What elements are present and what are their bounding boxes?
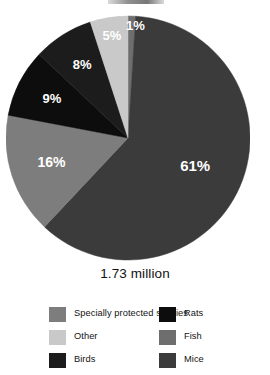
legend-item-label: Rats <box>184 309 203 318</box>
legend-swatch <box>49 307 66 322</box>
legend-item[interactable]: Mice <box>159 349 259 371</box>
pie-slice-label: 16% <box>37 154 66 170</box>
legend-item[interactable]: Specially protected species <box>49 303 159 325</box>
legend-column-left: Specially protected speciesOtherBirds <box>49 303 159 372</box>
chart-legend: Specially protected speciesOtherBirds Ra… <box>0 303 270 373</box>
legend-swatch <box>159 353 176 368</box>
legend-item-label: Mice <box>184 355 204 364</box>
pie-chart-svg: 1%61%16%9%8%5% <box>6 14 250 262</box>
legend-item[interactable]: Rats <box>159 303 259 325</box>
legend-column-right: RatsFishMice <box>159 303 259 372</box>
pie-slice-label: 61% <box>180 157 210 174</box>
clipped-top-artifact <box>108 0 164 4</box>
legend-item[interactable]: Other <box>49 326 159 348</box>
pie-slice-label: 8% <box>73 57 92 72</box>
legend-swatch <box>159 330 176 345</box>
pie-slices <box>6 16 250 260</box>
legend-item[interactable]: Fish <box>159 326 259 348</box>
pie-slice-label: 9% <box>43 91 62 106</box>
legend-item-label: Fish <box>184 332 202 341</box>
pie-chart: 1%61%16%9%8%5% <box>6 14 250 262</box>
legend-item[interactable]: Birds <box>49 349 159 371</box>
pie-slice-label: 1% <box>126 18 145 33</box>
pie-slice-label: 5% <box>103 28 122 43</box>
chart-total-caption: 1.73 million <box>0 266 270 281</box>
legend-swatch <box>49 330 66 345</box>
legend-item-label: Other <box>74 332 98 341</box>
legend-item-label: Birds <box>74 355 95 364</box>
legend-swatch <box>49 353 66 368</box>
legend-swatch <box>159 307 176 322</box>
pie-chart-figure: 1%61%16%9%8%5% 1.73 million Specially pr… <box>0 0 270 375</box>
